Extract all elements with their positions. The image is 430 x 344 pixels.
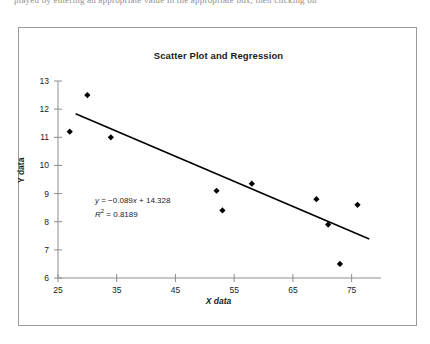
x-axis-title-text: X data xyxy=(206,296,232,306)
y-tick-label: 6 xyxy=(27,273,49,283)
scatter-plot-svg xyxy=(19,28,418,327)
y-tick-label: 11 xyxy=(27,132,49,142)
equation-body: = −0.089 xyxy=(99,196,133,205)
scatter-point xyxy=(313,196,319,202)
x-axis-title: X data xyxy=(19,296,418,306)
y-tick-label: 8 xyxy=(27,217,49,227)
equation-suffix: + 14.328 xyxy=(137,196,171,205)
r-squared-value: R2 = 0.8189 xyxy=(95,207,170,220)
scanned-page-text-fragment: played by entering an appropriate value … xyxy=(0,0,430,9)
x-tick-label: 35 xyxy=(105,285,129,295)
x-tick-label: 75 xyxy=(340,285,364,295)
y-tick-label: 12 xyxy=(27,104,49,114)
x-tick-label: 65 xyxy=(281,285,305,295)
y-tick-label: 9 xyxy=(27,189,49,199)
scanned-text: played by entering an appropriate value … xyxy=(14,0,317,5)
scatter-point xyxy=(219,207,225,213)
y-tick-label: 7 xyxy=(27,245,49,255)
y-tick-label: 10 xyxy=(27,160,49,170)
chart-figure-frame: Scatter Plot and Regression Y data X dat… xyxy=(18,27,417,326)
x-tick-label: 55 xyxy=(222,285,246,295)
scatter-point xyxy=(67,129,73,135)
r-squared-number: = 0.8189 xyxy=(104,209,138,218)
scatter-point xyxy=(337,261,343,267)
x-tick-label: 25 xyxy=(46,285,70,295)
regression-equation: y = −0.089x + 14.328 xyxy=(95,196,170,207)
x-tick-label: 45 xyxy=(163,285,187,295)
scatter-point xyxy=(354,202,360,208)
scatter-point xyxy=(249,181,255,187)
plot-area: Y data X data y = −0.089x + 14.328 R2 = … xyxy=(19,28,418,327)
y-axis-title: Y data xyxy=(16,158,26,183)
scatter-point xyxy=(108,134,114,140)
scatter-point xyxy=(84,92,90,98)
y-tick-label: 13 xyxy=(27,76,49,86)
scatter-point xyxy=(213,188,219,194)
regression-annotation: y = −0.089x + 14.328 R2 = 0.8189 xyxy=(95,196,170,220)
